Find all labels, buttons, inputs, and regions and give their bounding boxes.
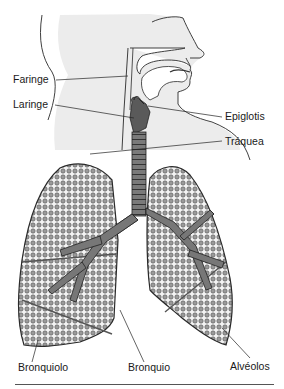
bottom-divider xyxy=(15,384,274,385)
label-epiglotis: Epiglotis xyxy=(225,110,265,122)
label-bronquio: Bronquio xyxy=(128,361,170,373)
label-traquea: Tráquea xyxy=(225,135,264,147)
respiratory-system-diagram xyxy=(0,0,284,389)
left-lung xyxy=(19,164,119,347)
label-alveolos: Alvéolos xyxy=(230,360,270,372)
trachea-shape xyxy=(132,132,146,216)
label-bronquiolo: Bronquiolo xyxy=(18,361,68,373)
label-faringe: Faringe xyxy=(13,73,49,85)
label-laringe: Laringe xyxy=(13,98,48,110)
